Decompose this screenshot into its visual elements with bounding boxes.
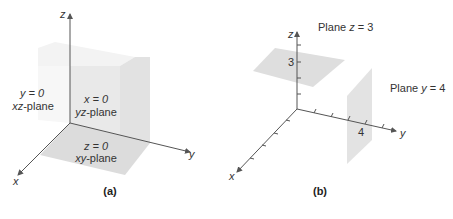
caption-a: (a) <box>103 185 117 197</box>
cube-side-face <box>120 57 150 148</box>
xy-plane-equation: z = 0 <box>83 140 109 152</box>
z-tick-label-3: 3 <box>288 56 294 68</box>
yz-plane-equation: x = 0 <box>83 93 109 105</box>
panel-a: z y x y = 0 xz-plane x = 0 yz-plane z = … <box>11 8 196 197</box>
y-axis-label-b: y <box>399 127 407 139</box>
xz-plane-equation: y = 0 <box>19 87 45 99</box>
y-axis-label-a: y <box>188 148 196 160</box>
y-tick-label-4: 4 <box>358 126 364 138</box>
plane-y-4-label: Plane y = 4 <box>390 82 445 94</box>
xy-plane-name: xy-plane <box>74 152 117 164</box>
coordinate-planes-figure: z y x y = 0 xz-plane x = 0 yz-plane z = … <box>0 0 453 219</box>
plane-z-equals-3 <box>253 48 345 87</box>
z-axis-label-a: z <box>59 8 66 20</box>
plane-z-3-label: Plane z = 3 <box>318 21 373 33</box>
y-axis-b <box>297 109 396 131</box>
caption-b: (b) <box>313 185 327 197</box>
xz-plane-top <box>38 42 135 66</box>
x-axis-label-a: x <box>12 175 19 187</box>
plane-y-equals-4 <box>347 68 372 164</box>
x-ticks-b <box>250 120 290 159</box>
yz-plane-name: yz-plane <box>74 106 117 118</box>
panel-b: z y x 3 4 Plane z = 3 Plane y = 4 (b) <box>228 21 445 197</box>
x-axis-b <box>237 109 297 172</box>
z-axis-label-b: z <box>287 28 294 40</box>
x-axis-label-b: x <box>228 170 235 182</box>
xz-plane-name: xz-plane <box>11 100 54 112</box>
